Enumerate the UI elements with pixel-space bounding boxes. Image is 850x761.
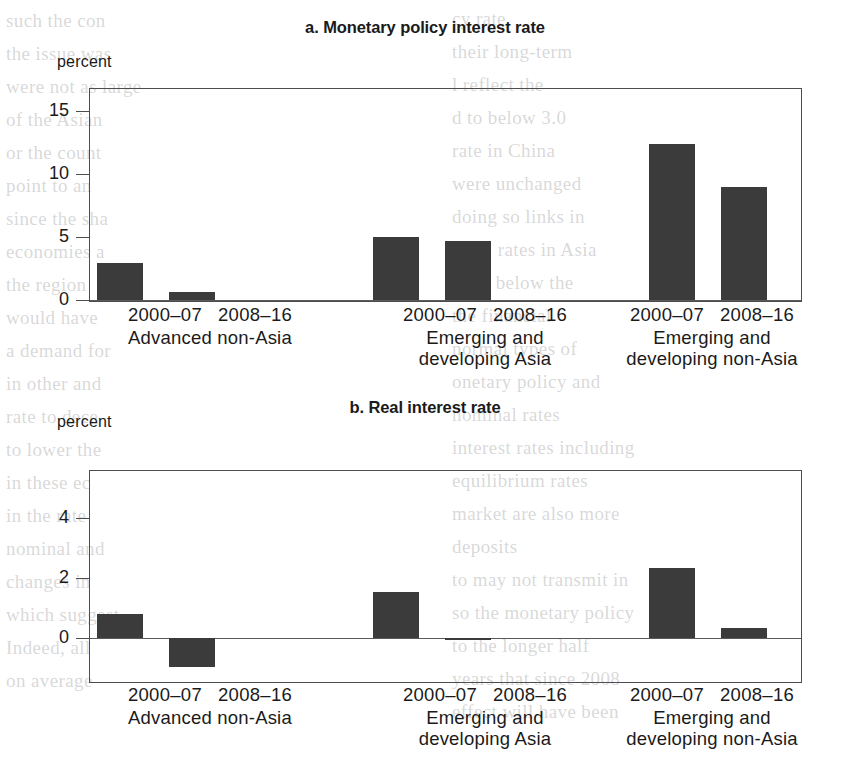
- chart-panel-real-interest-rate: b. Real interest rate percent 0 2 4 2000…: [0, 381, 850, 761]
- panel-b-title: b. Real interest rate: [0, 398, 850, 417]
- x-axis-region-label: Emerging and developing non-Asia: [562, 707, 850, 749]
- panel-b-y-axis-unit: percent: [57, 413, 112, 431]
- panel-b-ytick-4: 4: [76, 518, 90, 519]
- bar-panel-b-g2-2000-07: [649, 568, 695, 639]
- x-axis-group-0: 2000–072008–16Advanced non-Asia: [60, 684, 360, 728]
- panel-a-title: a. Monetary policy interest rate: [0, 18, 850, 37]
- x-axis-period-label: 2000–07: [403, 304, 477, 326]
- x-axis-period-pair: 2000–072008–16: [60, 684, 360, 706]
- bar-panel-b-g0-2000-07: [97, 614, 143, 638]
- x-axis-period-label: 2008–16: [218, 304, 292, 326]
- x-axis-period-label: 2000–07: [630, 304, 704, 326]
- bar-panel-a-g2-2000-07: [649, 144, 695, 300]
- bar-panel-b-g0-2008-16: [169, 638, 215, 667]
- bar-panel-b-g1-2008-16: [445, 638, 491, 640]
- x-axis-region-label: Emerging and developing non-Asia: [562, 327, 850, 369]
- chart-panel-monetary-policy-interest-rate: a. Monetary policy interest rate percent…: [0, 0, 850, 380]
- x-axis-period-label: 2000–07: [128, 304, 202, 326]
- x-axis-group-2: 2000–072008–16Emerging and developing no…: [562, 304, 850, 369]
- panel-a-ytick-10: 10: [76, 174, 90, 175]
- x-axis-period-label: 2000–07: [403, 684, 477, 706]
- panel-a-zero-line: [90, 300, 801, 301]
- bar-panel-a-g2-2008-16: [721, 187, 767, 300]
- x-axis-period-label: 2008–16: [720, 304, 794, 326]
- x-axis-period-pair: 2000–072008–16: [60, 304, 360, 326]
- panel-a-ytick-15: 15: [76, 111, 90, 112]
- panel-b-ytick-0: 0: [76, 638, 90, 639]
- x-axis-group-2: 2000–072008–16Emerging and developing no…: [562, 684, 850, 749]
- x-axis-period-label: 2008–16: [720, 684, 794, 706]
- bar-panel-b-g2-2008-16: [721, 628, 767, 639]
- bar-panel-a-g1-2008-16: [445, 241, 491, 300]
- bar-panel-a-g1-2000-07: [373, 237, 419, 300]
- panel-a-ytick-0: 0: [76, 300, 90, 301]
- x-axis-period-pair: 2000–072008–16: [562, 684, 850, 706]
- x-axis-period-label: 2000–07: [630, 684, 704, 706]
- x-axis-region-label: Advanced non-Asia: [60, 707, 360, 728]
- bar-panel-a-g0-2000-07: [97, 263, 143, 300]
- panel-a-y-axis-unit: percent: [57, 53, 112, 71]
- bar-panel-a-g0-2008-16: [169, 292, 215, 300]
- x-axis-group-0: 2000–072008–16Advanced non-Asia: [60, 304, 360, 348]
- x-axis-region-label: Advanced non-Asia: [60, 327, 360, 348]
- x-axis-period-label: 2008–16: [493, 304, 567, 326]
- panel-b-plot-area: 0 2 4: [89, 470, 802, 683]
- panel-b-ytick-2: 2: [76, 578, 90, 579]
- panel-a-ytick-5: 5: [76, 237, 90, 238]
- panel-a-plot-area: 0 5 10 15: [89, 88, 802, 302]
- x-axis-period-label: 2008–16: [218, 684, 292, 706]
- x-axis-period-label: 2000–07: [128, 684, 202, 706]
- bar-panel-b-g1-2000-07: [373, 592, 419, 639]
- x-axis-period-pair: 2000–072008–16: [562, 304, 850, 326]
- x-axis-period-label: 2008–16: [493, 684, 567, 706]
